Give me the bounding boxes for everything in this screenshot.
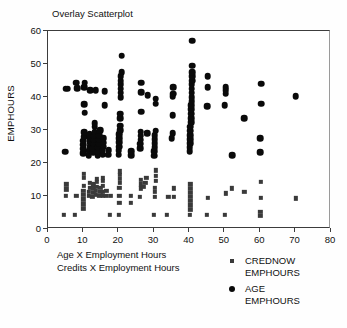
x-tick-label: 30 <box>138 234 168 245</box>
data-point-square <box>82 171 86 175</box>
data-point-square <box>166 195 170 199</box>
data-point-square <box>118 181 122 185</box>
data-point-circle <box>152 95 159 102</box>
data-point-square <box>293 196 297 200</box>
data-point-square <box>259 195 263 199</box>
legend-entry[interactable]: CREDNOWEMPHOURS <box>228 255 300 279</box>
y-tick-label: 10 <box>0 190 41 201</box>
data-point-square <box>152 213 156 217</box>
data-point-square <box>187 213 191 217</box>
data-point-circle <box>189 38 196 45</box>
data-point-circle <box>65 85 72 92</box>
data-point-square <box>82 184 86 188</box>
data-point-square <box>258 214 262 218</box>
data-point-circle <box>92 87 99 94</box>
data-point-square <box>143 181 147 185</box>
data-point-square <box>223 191 227 195</box>
scatterplot-figure: Overlay Scatterplot EMPHOURS 01020304050… <box>0 0 347 328</box>
chart-title: Overlay Scatterplot <box>52 8 133 19</box>
data-point-square <box>171 195 175 199</box>
data-point-circle <box>205 84 212 91</box>
y-tick-label: 20 <box>0 157 41 168</box>
data-point-circle <box>97 127 104 134</box>
data-point-circle <box>152 127 159 134</box>
data-point-square <box>129 194 133 198</box>
data-point-circle <box>222 84 229 91</box>
data-point-circle <box>205 73 212 80</box>
data-point-square <box>118 169 122 173</box>
data-point-square <box>74 194 78 198</box>
data-point-circle <box>117 122 124 129</box>
chart-legend: CREDNOWEMPHOURSAGEEMPHOURS <box>228 255 300 311</box>
x-tick-label: 70 <box>280 234 310 245</box>
data-point-circle <box>144 92 151 99</box>
data-point-square <box>117 194 121 198</box>
data-point-square <box>117 186 121 190</box>
data-point-square <box>164 213 168 217</box>
x-tick-label: 0 <box>32 234 62 245</box>
data-point-square <box>258 210 262 214</box>
data-point-square <box>101 184 105 188</box>
data-point-circle <box>258 100 265 107</box>
data-point-square <box>109 194 113 198</box>
data-point-square <box>118 176 122 180</box>
x-tick-mark <box>223 228 224 232</box>
data-point-square <box>101 176 105 180</box>
data-point-square <box>95 177 99 181</box>
x-caption-line: Credits X Employment Hours <box>57 262 179 275</box>
data-point-circle <box>117 110 124 117</box>
data-point-square <box>129 200 133 204</box>
data-point-circle <box>169 130 176 137</box>
data-point-square <box>259 180 263 184</box>
data-point-square <box>153 179 157 183</box>
data-point-square <box>64 194 68 198</box>
data-point-circle <box>144 130 151 137</box>
data-point-circle <box>169 112 176 119</box>
y-tick-label: 0 <box>0 223 41 234</box>
data-point-circle <box>189 62 196 69</box>
data-point-circle <box>258 81 265 88</box>
data-point-square <box>188 195 192 199</box>
data-point-square <box>144 176 148 180</box>
data-point-circle <box>229 152 236 159</box>
data-point-square <box>81 202 85 206</box>
x-tick-mark <box>117 228 118 232</box>
data-point-circle <box>138 109 145 116</box>
data-point-square <box>81 193 85 197</box>
plot-area <box>47 30 330 228</box>
y-tick-label: 60 <box>0 25 41 36</box>
x-tick-label: 80 <box>315 234 345 245</box>
data-point-square <box>82 176 86 180</box>
data-point-square <box>81 189 85 193</box>
data-point-circle <box>81 101 88 108</box>
data-point-square <box>153 174 157 178</box>
x-caption-line: Age X Employment Hours <box>57 249 179 262</box>
data-point-square <box>64 187 68 191</box>
data-point-circle <box>91 120 98 127</box>
data-point-square <box>188 187 192 191</box>
legend-square-icon <box>230 259 234 263</box>
data-points-layer <box>48 31 329 227</box>
legend-entry[interactable]: AGEEMPHOURS <box>228 283 300 307</box>
data-point-square <box>188 191 192 195</box>
data-point-circle <box>118 52 125 59</box>
x-tick-label: 10 <box>67 234 97 245</box>
data-point-square <box>206 195 210 199</box>
data-point-square <box>188 203 192 207</box>
data-point-square <box>188 208 192 212</box>
data-point-circle <box>170 90 177 97</box>
legend-label-sub: EMPHOURS <box>245 295 300 307</box>
data-point-square <box>81 206 85 210</box>
data-point-circle <box>62 148 69 155</box>
data-point-square <box>188 182 192 186</box>
data-point-circle <box>257 135 264 142</box>
data-point-circle <box>101 102 108 109</box>
data-point-square <box>171 186 175 190</box>
y-tick-label: 50 <box>0 58 41 69</box>
data-point-circle <box>222 102 229 109</box>
x-tick-mark <box>153 228 154 232</box>
data-point-square <box>141 185 145 189</box>
data-point-square <box>104 189 108 193</box>
x-axis-caption: Age X Employment HoursCredits X Employme… <box>57 249 179 274</box>
x-tick-mark <box>294 228 295 232</box>
